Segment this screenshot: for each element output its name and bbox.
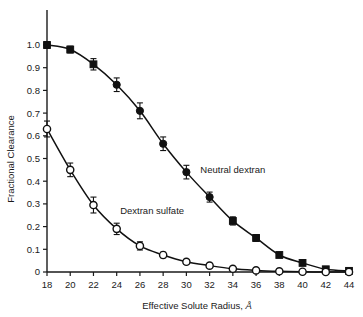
chart-container: 00.10.20.30.40.50.60.70.80.91.0 18202224…	[0, 0, 363, 317]
data-point	[67, 166, 74, 173]
x-tick-label: 26	[135, 279, 146, 290]
data-point	[183, 258, 190, 265]
x-tick-label: 40	[297, 279, 308, 290]
data-point	[252, 267, 259, 274]
x-tick-label: 24	[111, 279, 122, 290]
y-axis-title: Fractional Clearance	[5, 115, 16, 203]
x-axis-title: Effective Solute Radius, Å	[142, 300, 252, 311]
series-curve	[47, 129, 349, 272]
fractional-clearance-plot: 00.10.20.30.40.50.60.70.80.91.0 18202224…	[0, 0, 363, 317]
data-series-layer	[43, 42, 352, 276]
data-point	[206, 262, 213, 269]
data-point	[67, 46, 74, 53]
series-curve	[47, 45, 349, 271]
data-point	[299, 260, 306, 267]
y-tick-label: 1.0	[27, 39, 40, 50]
y-tick-label: 0.9	[27, 62, 40, 73]
x-tick-label: 20	[65, 279, 76, 290]
y-tick-label: 0.1	[27, 244, 40, 255]
series-dextran-sulfate	[43, 121, 352, 276]
y-axis-ticks: 00.10.20.30.40.50.60.70.80.91.0	[27, 39, 47, 277]
x-tick-label: 42	[320, 279, 331, 290]
y-tick-label: 0.8	[27, 85, 40, 96]
x-tick-label: 28	[158, 279, 169, 290]
data-point	[90, 201, 97, 208]
y-tick-label: 0.7	[27, 108, 40, 119]
data-point	[322, 268, 329, 275]
data-point	[299, 268, 306, 275]
y-tick-label: 0.2	[27, 221, 40, 232]
y-tick-label: 0	[35, 266, 40, 277]
x-tick-label: 44	[344, 279, 355, 290]
data-point	[276, 252, 283, 259]
data-point	[90, 61, 97, 68]
data-point	[113, 225, 120, 232]
x-axis-ticks: 1820222426283032343638404244	[42, 272, 355, 290]
data-point	[43, 125, 50, 132]
axes-group	[47, 10, 349, 272]
data-point	[160, 140, 167, 147]
x-tick-label: 32	[204, 279, 215, 290]
x-tick-label: 36	[251, 279, 262, 290]
series-neutral-dextran	[44, 42, 353, 275]
data-point	[345, 268, 352, 275]
series-annotations: Neutral dextranDextran sulfate	[120, 164, 265, 216]
data-point	[206, 193, 213, 200]
data-point	[276, 268, 283, 275]
y-tick-label: 0.4	[27, 176, 40, 187]
x-tick-label: 34	[228, 279, 239, 290]
data-point	[44, 42, 51, 49]
data-point	[229, 265, 236, 272]
data-point	[113, 81, 120, 88]
y-tick-label: 0.3	[27, 198, 40, 209]
x-tick-label: 18	[42, 279, 53, 290]
y-tick-label: 0.5	[27, 153, 40, 164]
data-point	[229, 218, 236, 225]
series-label-dextran-sulfate: Dextran sulfate	[120, 205, 184, 216]
x-tick-label: 30	[181, 279, 192, 290]
x-tick-label: 38	[274, 279, 285, 290]
series-label-neutral-dextran: Neutral dextran	[200, 164, 265, 175]
data-point	[183, 169, 190, 176]
data-point	[253, 235, 260, 242]
data-point	[136, 242, 143, 249]
y-tick-label: 0.6	[27, 130, 40, 141]
x-tick-label: 22	[88, 279, 99, 290]
data-point	[136, 107, 143, 114]
data-point	[160, 251, 167, 258]
